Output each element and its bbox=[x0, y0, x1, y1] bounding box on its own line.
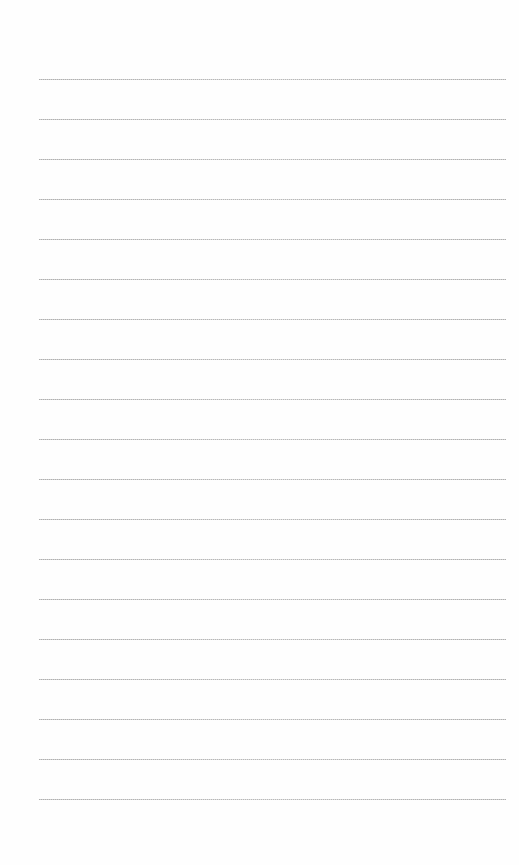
ruled-line bbox=[39, 79, 506, 80]
ruled-line bbox=[39, 119, 506, 120]
ruled-line bbox=[39, 159, 506, 160]
ruled-line bbox=[39, 359, 506, 360]
ruled-line bbox=[39, 199, 506, 200]
ruled-line bbox=[39, 279, 506, 280]
ruled-line bbox=[39, 639, 506, 640]
ruled-line bbox=[39, 479, 506, 480]
lined-paper bbox=[0, 0, 519, 865]
ruled-line bbox=[39, 519, 506, 520]
ruled-line bbox=[39, 319, 506, 320]
ruled-line bbox=[39, 759, 506, 760]
ruled-line bbox=[39, 599, 506, 600]
ruled-line bbox=[39, 439, 506, 440]
ruled-line bbox=[39, 239, 506, 240]
ruled-line bbox=[39, 799, 506, 800]
ruled-line bbox=[39, 679, 506, 680]
ruled-line bbox=[39, 559, 506, 560]
ruled-line bbox=[39, 399, 506, 400]
ruled-line bbox=[39, 719, 506, 720]
